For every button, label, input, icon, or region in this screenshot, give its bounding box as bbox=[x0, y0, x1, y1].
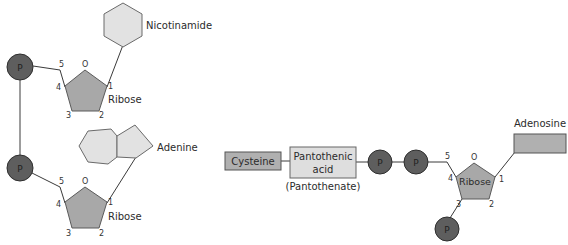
right-c5: 5 bbox=[445, 152, 450, 161]
bottom-c5: 5 bbox=[59, 177, 64, 186]
pantothenic-label-line2: acid bbox=[313, 164, 334, 175]
adenosine-label: Adenosine bbox=[514, 118, 566, 129]
bottom-c3: 3 bbox=[66, 229, 71, 238]
bottom-ribose-ring bbox=[65, 187, 107, 228]
cysteine-label: Cysteine bbox=[231, 156, 274, 167]
right-c1: 1 bbox=[499, 175, 504, 184]
right-c4: 4 bbox=[448, 174, 453, 183]
adenine-five-ring bbox=[117, 125, 153, 158]
right-ring-oxygen: O bbox=[471, 153, 477, 162]
ribose-adenosine-bond bbox=[495, 152, 515, 177]
bottom-phosphate-label: P bbox=[17, 164, 23, 174]
top-ribose-label: Ribose bbox=[108, 94, 142, 105]
bottom-c2: 2 bbox=[99, 229, 104, 238]
top-c3: 3 bbox=[66, 111, 71, 120]
nicotinamide-label: Nicotinamide bbox=[146, 20, 212, 31]
coa-structure: Cysteine Pantothenic acid (Pantothenate)… bbox=[225, 118, 566, 241]
top-phosphate-label: P bbox=[17, 63, 23, 73]
pantothenic-label-line1: Pantothenic bbox=[293, 151, 352, 162]
bottom-c4: 4 bbox=[56, 200, 61, 209]
top-c5: 5 bbox=[59, 60, 64, 69]
phosphate-2-label: P bbox=[413, 158, 419, 168]
adenosine-box bbox=[514, 134, 566, 153]
adenine-label: Adenine bbox=[157, 142, 198, 153]
nicotinamide-ring bbox=[104, 3, 142, 47]
right-c2: 2 bbox=[489, 200, 494, 209]
bottom-ring-oxygen: O bbox=[82, 177, 88, 186]
phosphate-3-label: P bbox=[444, 225, 450, 235]
bottom-c1: 1 bbox=[108, 198, 113, 207]
top-ring-oxygen: O bbox=[82, 60, 88, 69]
top-ribose-ring bbox=[65, 70, 107, 111]
ribose-nicotinamide-bond bbox=[107, 45, 123, 87]
bottom-ribose-label: Ribose bbox=[108, 211, 142, 222]
coenzyme-diagram: Nicotinamide Adenine O 1 2 3 4 5 Ribose … bbox=[0, 0, 568, 245]
pantothenate-label: (Pantothenate) bbox=[286, 181, 361, 192]
phosphate-1-label: P bbox=[377, 158, 383, 168]
adenine-six-ring bbox=[79, 129, 117, 164]
top-c4: 4 bbox=[56, 83, 61, 92]
right-ribose-label: Ribose bbox=[459, 176, 491, 187]
ribose-adenine-bond bbox=[107, 157, 136, 203]
right-c3: 3 bbox=[456, 200, 461, 209]
top-c2: 2 bbox=[99, 111, 104, 120]
nad-structure: Nicotinamide Adenine O 1 2 3 4 5 Ribose … bbox=[7, 3, 212, 238]
top-c1: 1 bbox=[108, 82, 113, 91]
